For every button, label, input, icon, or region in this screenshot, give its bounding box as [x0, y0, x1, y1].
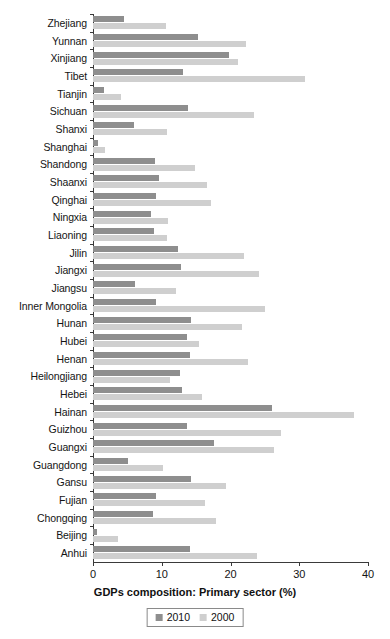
bar-row: Heilongjiang: [93, 367, 368, 385]
bar-2000: [93, 341, 199, 347]
bar-group: [93, 85, 368, 102]
y-axis-label: Shaanxi: [50, 176, 87, 188]
bar-2010: [93, 87, 104, 93]
bar-2010: [93, 299, 156, 305]
bar-row: Shanxi: [93, 120, 368, 138]
bar-2010: [93, 281, 135, 287]
y-axis-label: Hainan: [54, 406, 87, 418]
legend-label-2010: 2010: [167, 611, 190, 623]
bar-2000: [93, 447, 274, 453]
bar-row: Fujian: [93, 491, 368, 509]
bar-group: [93, 120, 368, 137]
y-axis-tick: [90, 191, 93, 192]
y-axis-tick: [90, 155, 93, 156]
x-axis-tick: [368, 562, 369, 566]
bar-2000: [93, 200, 211, 206]
bar-row: Sichuan: [93, 102, 368, 120]
bar-row: Xinjiang: [93, 49, 368, 67]
bar-group: [93, 173, 368, 190]
y-axis-tick: [90, 385, 93, 386]
bar-row: Ningxia: [93, 208, 368, 226]
y-axis-label: Chongqing: [37, 512, 87, 524]
bar-group: [93, 350, 368, 367]
y-axis-tick: [90, 261, 93, 262]
x-axis-tick: [231, 562, 232, 566]
bar-group: [93, 279, 368, 296]
chart-legend: 2010 2000: [147, 608, 244, 627]
bar-2010: [93, 158, 155, 164]
bar-row: Jiangxi: [93, 261, 368, 279]
y-axis-tick: [90, 473, 93, 474]
y-axis-label: Henan: [57, 353, 87, 365]
y-axis-label: Ningxia: [53, 211, 87, 223]
bar-2000: [93, 288, 176, 294]
bar-row: Shandong: [93, 155, 368, 173]
bar-2010: [93, 370, 180, 376]
bar-2000: [93, 59, 238, 65]
x-axis-tick: [93, 562, 94, 566]
bar-row: Guangdong: [93, 456, 368, 474]
bar-2010: [93, 476, 191, 482]
y-axis-tick: [90, 279, 93, 280]
bar-2000: [93, 324, 242, 330]
y-axis-label: Shandong: [40, 158, 87, 170]
bar-2000: [93, 253, 244, 259]
bar-row: Shaanxi: [93, 173, 368, 191]
bar-row: Yunnan: [93, 32, 368, 50]
bar-2000: [93, 518, 216, 524]
y-axis-tick: [90, 244, 93, 245]
y-axis-label: Anhui: [61, 547, 87, 559]
bar-2000: [93, 553, 257, 559]
bar-2000: [93, 147, 105, 153]
chart-container: ZhejiangYunnanXinjiangTibetTianjinSichua…: [0, 0, 390, 639]
bar-2010: [93, 140, 98, 146]
bar-2000: [93, 359, 248, 365]
bar-2010: [93, 423, 187, 429]
x-axis-tick-label: 20: [224, 568, 236, 580]
y-axis-tick: [90, 297, 93, 298]
x-axis-tick: [162, 562, 163, 566]
bar-2000: [93, 465, 163, 471]
bar-group: [93, 526, 368, 543]
y-axis-label: Jilin: [69, 247, 87, 259]
bar-group: [93, 67, 368, 84]
y-axis-label: Guizhou: [49, 423, 87, 435]
y-axis-tick: [90, 32, 93, 33]
bar-2010: [93, 529, 97, 535]
bar-group: [93, 244, 368, 261]
bar-2010: [93, 34, 198, 40]
bar-2010: [93, 246, 178, 252]
y-axis-label: Liaoning: [48, 229, 87, 241]
bar-2000: [93, 129, 167, 135]
bar-row: Guizhou: [93, 420, 368, 438]
bar-2000: [93, 394, 202, 400]
bar-group: [93, 473, 368, 490]
bar-row: Beijing: [93, 526, 368, 544]
y-axis-tick: [90, 208, 93, 209]
y-axis-tick: [90, 456, 93, 457]
bar-group: [93, 155, 368, 172]
y-axis-label: Guangxi: [49, 441, 87, 453]
bar-group: [93, 14, 368, 31]
bar-group: [93, 102, 368, 119]
y-axis-label: Guangdong: [33, 459, 87, 471]
bar-group: [93, 456, 368, 473]
bar-2000: [93, 271, 259, 277]
bar-2010: [93, 440, 214, 446]
y-axis-tick: [90, 14, 93, 15]
bar-2000: [93, 483, 226, 489]
bar-row: Anhui: [93, 544, 368, 562]
y-axis-tick: [90, 491, 93, 492]
bar-2010: [93, 264, 181, 270]
bar-row: Chongqing: [93, 509, 368, 527]
bar-2000: [93, 412, 354, 418]
y-axis-tick: [90, 350, 93, 351]
bar-row: Tibet: [93, 67, 368, 85]
y-axis-label: Gansu: [57, 476, 87, 488]
y-axis-tick: [90, 438, 93, 439]
legend-swatch-2010-icon: [156, 614, 163, 621]
bar-group: [93, 509, 368, 526]
y-axis-tick: [90, 138, 93, 139]
bar-group: [93, 138, 368, 155]
bar-group: [93, 49, 368, 66]
